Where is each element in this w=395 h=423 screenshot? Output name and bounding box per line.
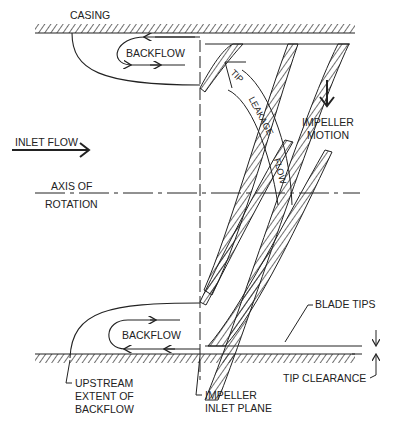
upstream-label-line3: BACKFLOW [75, 403, 134, 415]
blade-tips-label: BLADE TIPS [315, 298, 376, 310]
inlet-plane-label-line2: INLET PLANE [205, 402, 272, 414]
casing-bottom [35, 354, 355, 363]
diagram-canvas [0, 0, 395, 423]
inlet-flow-label: INLET FLOW [15, 136, 78, 148]
inlet-plane-label-line1: IMPELLER [205, 389, 257, 401]
casing-label: CASING [70, 9, 110, 21]
backflow-top-label: BACKFLOW [126, 47, 185, 59]
upstream-label-line2: EXTENT OF [75, 390, 134, 402]
casing-top [35, 24, 355, 33]
axis-label-line2: ROTATION [45, 198, 98, 210]
axis-label-line1: AXIS OF [51, 180, 92, 192]
backflow-bottom-label: BACKFLOW [122, 329, 181, 341]
impeller-motion-label-line1: IMPELLER [302, 116, 354, 128]
backflow-top-region [72, 33, 200, 85]
impeller-motion-label-line2: MOTION [307, 129, 349, 141]
upstream-label-line1: UPSTREAM [75, 377, 133, 389]
tip-clearance-label: TIP CLEARANCE [283, 372, 366, 384]
